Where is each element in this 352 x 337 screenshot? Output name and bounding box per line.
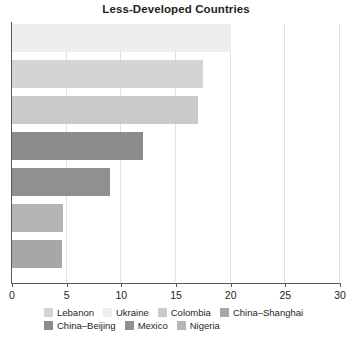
legend-swatch-icon [103, 308, 112, 317]
bar-row [12, 96, 198, 124]
legend-swatch-icon [125, 321, 134, 330]
bar-nigeria [12, 204, 63, 232]
legend-swatch-icon [177, 321, 186, 330]
legend-item-china-shanghai[interactable]: China–Shanghai [220, 307, 303, 318]
legend-swatch-icon [220, 308, 229, 317]
legend-swatch-icon [44, 308, 53, 317]
legend-item-mexico[interactable]: Mexico [125, 320, 168, 331]
legend-item-nigeria[interactable]: Nigeria [177, 320, 220, 331]
tick-0 [12, 283, 13, 287]
legend-item-ukraine[interactable]: Ukraine [103, 307, 149, 318]
chart-legend: LebanonUkraineColombiaChina–Shanghai Chi… [44, 306, 344, 332]
gridline-25 [284, 24, 285, 282]
bar-row [12, 204, 63, 232]
x-tick-label-0: 0 [0, 289, 27, 301]
gridline-20 [230, 24, 231, 282]
bar-mexico [12, 168, 110, 196]
bar-row [12, 60, 203, 88]
legend-label: Mexico [138, 320, 168, 331]
bar-row [12, 240, 62, 268]
x-tick-label-25: 25 [270, 289, 300, 301]
tick-5 [67, 283, 68, 287]
legend-row-1: LebanonUkraineColombiaChina–Shanghai [44, 306, 344, 319]
legend-label: Colombia [171, 307, 211, 318]
legend-label: Lebanon [57, 307, 94, 318]
legend-label: China–Shanghai [233, 307, 303, 318]
bar-china-beijing [12, 132, 143, 160]
bar-lebanon [12, 60, 203, 88]
x-tick-label-20: 20 [216, 289, 246, 301]
x-tick-label-15: 15 [161, 289, 191, 301]
x-tick-label-5: 5 [52, 289, 82, 301]
gridline-30 [339, 24, 340, 282]
tick-15 [176, 283, 177, 287]
legend-row-2: China–BeijingMexicoNigeria [44, 319, 344, 332]
chart-title: Less-Developed Countries [0, 3, 352, 15]
bar-row [12, 168, 110, 196]
tick-20 [231, 283, 232, 287]
tick-25 [285, 283, 286, 287]
tick-10 [121, 283, 122, 287]
legend-label: Ukraine [116, 307, 149, 318]
bar-ukraine [12, 24, 231, 52]
bar-china-shanghai [12, 240, 62, 268]
bar-row [12, 132, 143, 160]
legend-item-china-beijing[interactable]: China–Beijing [44, 320, 116, 331]
bar-colombia [12, 96, 198, 124]
legend-label: China–Beijing [57, 320, 116, 331]
bar-row [12, 24, 231, 52]
x-tick-label-30: 30 [325, 289, 352, 301]
tick-30 [340, 283, 341, 287]
legend-swatch-icon [158, 308, 167, 317]
chart-container: Less-Developed Countries 051015202530 Le… [0, 0, 352, 337]
legend-item-lebanon[interactable]: Lebanon [44, 307, 94, 318]
legend-swatch-icon [44, 321, 53, 330]
legend-item-colombia[interactable]: Colombia [158, 307, 211, 318]
legend-label: Nigeria [190, 320, 220, 331]
x-tick-label-10: 10 [106, 289, 136, 301]
